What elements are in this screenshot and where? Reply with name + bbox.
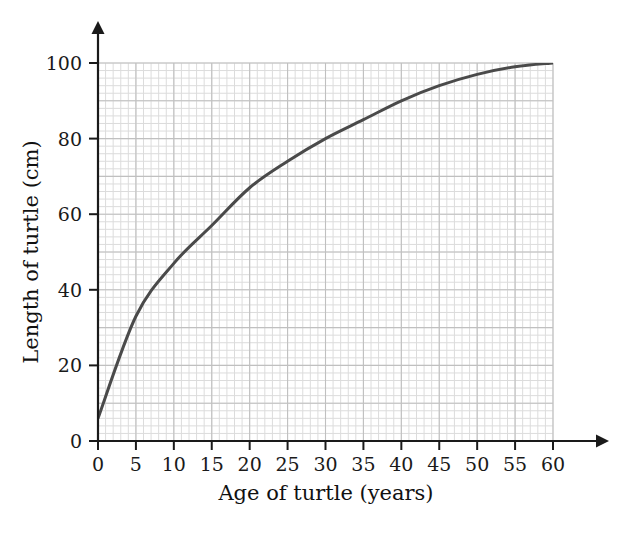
chart-figure: 051015202530354045505560 020406080100 Ag…	[0, 0, 622, 533]
y-axis-title: Length of turtle (cm)	[19, 140, 43, 363]
x-tick-label: 20	[238, 453, 262, 475]
x-tick-label: 5	[130, 453, 142, 475]
turtle-growth-chart: 051015202530354045505560 020406080100 Ag…	[0, 0, 622, 533]
x-axis-title: Age of turtle (years)	[217, 481, 433, 505]
y-tick-label: 0	[70, 430, 82, 452]
x-tick-label: 30	[313, 453, 337, 475]
x-tick-label: 55	[503, 453, 527, 475]
x-tick-label: 60	[541, 453, 565, 475]
y-tick-label: 100	[46, 52, 82, 74]
y-tick-label: 40	[58, 279, 82, 301]
x-tick-label: 40	[389, 453, 413, 475]
x-tick-label: 15	[200, 453, 224, 475]
y-tick-label: 20	[58, 354, 82, 376]
x-tick-label: 45	[427, 453, 451, 475]
x-tick-label: 50	[465, 453, 489, 475]
y-tick-label: 80	[58, 128, 82, 150]
x-tick-label: 25	[275, 453, 299, 475]
x-tick-label: 10	[162, 453, 186, 475]
x-tick-label: 35	[351, 453, 375, 475]
y-tick-label: 60	[58, 203, 82, 225]
x-tick-label: 0	[92, 453, 104, 475]
